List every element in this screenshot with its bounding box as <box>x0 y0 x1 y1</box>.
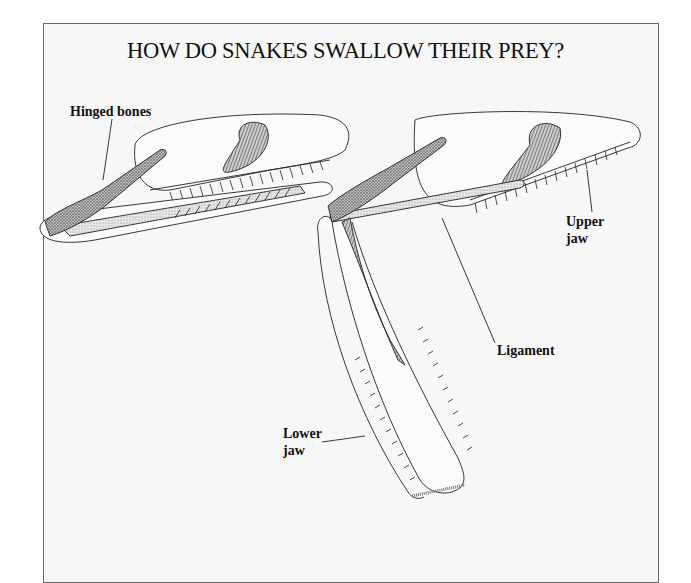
hinged-bones-leader <box>103 119 112 180</box>
label-lower-jaw-line2: jaw <box>283 442 322 459</box>
label-ligament: Ligament <box>497 342 555 359</box>
label-lower-jaw: Lower jaw <box>283 425 322 459</box>
label-lower-jaw-line1: Lower <box>283 425 322 442</box>
lower-jaw-leader <box>322 436 365 442</box>
label-upper-jaw-line1: Upper <box>566 213 604 230</box>
label-upper-jaw-line2: jaw <box>566 230 604 247</box>
skull-closed <box>40 114 349 242</box>
label-upper-jaw: Upper jaw <box>566 213 604 247</box>
upper-jaw-leader <box>587 170 592 212</box>
label-hinged-bones: Hinged bones <box>70 103 151 120</box>
ligament-leader <box>442 218 495 343</box>
